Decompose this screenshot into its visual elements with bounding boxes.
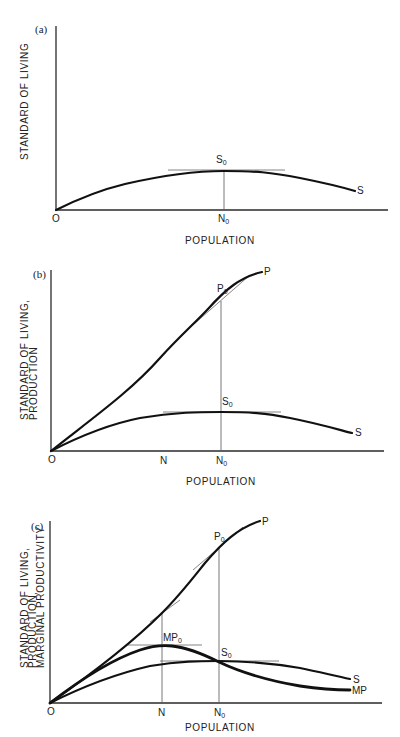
curve-s bbox=[56, 171, 355, 210]
curve-label-s: S bbox=[353, 674, 360, 685]
y-axis-label: STANDARD OF LIVING bbox=[19, 43, 30, 160]
curve-label-p: P bbox=[264, 266, 271, 277]
tick-label-n0: N0 bbox=[214, 707, 225, 719]
tick-label-n: N bbox=[160, 455, 167, 466]
point-label-s0: S0 bbox=[222, 396, 233, 408]
curve-p bbox=[51, 272, 262, 451]
curve-label-mp: MP bbox=[352, 685, 367, 696]
curve-label-s: S bbox=[357, 185, 364, 196]
curve-s bbox=[51, 412, 352, 451]
point-label-mp0: MP0 bbox=[163, 632, 182, 644]
x-axis-label: POPULATION bbox=[185, 722, 255, 733]
point-label-p0: P0 bbox=[214, 531, 225, 543]
curve-p bbox=[50, 521, 260, 703]
y-axis-label-line-2: PRODUCTION bbox=[28, 347, 39, 420]
panel-b: (b) STANDARD OF LIVING, PRODUCTION O POP… bbox=[19, 266, 384, 487]
panel-label: (b) bbox=[33, 268, 46, 281]
tick-label-n0: N0 bbox=[218, 213, 229, 225]
tick-label-n0: N0 bbox=[216, 455, 227, 467]
point-label-s0: S0 bbox=[216, 154, 227, 166]
origin-label: O bbox=[47, 706, 55, 717]
panel-c: (c) STANDARD OF LIVING, PRODUCTION, MARG… bbox=[19, 516, 382, 733]
point-label-s0: S0 bbox=[221, 647, 232, 659]
panel-label: (a) bbox=[35, 23, 48, 36]
figure: (a) STANDARD OF LIVING O POPULATION S0 S… bbox=[0, 0, 400, 737]
curve-mp bbox=[50, 646, 350, 703]
curve-label-s: S bbox=[355, 427, 362, 438]
tick-label-n: N bbox=[158, 707, 165, 718]
x-axis-label: POPULATION bbox=[185, 235, 255, 246]
curve-label-p: P bbox=[262, 516, 269, 527]
origin-label: O bbox=[52, 213, 60, 224]
x-axis-label: POPULATION bbox=[186, 476, 256, 487]
origin-label: O bbox=[48, 454, 56, 465]
y-axis-label-line-3: MARGINAL PRODUCTIVITY bbox=[35, 526, 46, 668]
point-label-p0: P0 bbox=[217, 283, 228, 295]
panel-a: (a) STANDARD OF LIVING O POPULATION S0 S… bbox=[19, 23, 388, 246]
curve-s bbox=[50, 661, 350, 703]
